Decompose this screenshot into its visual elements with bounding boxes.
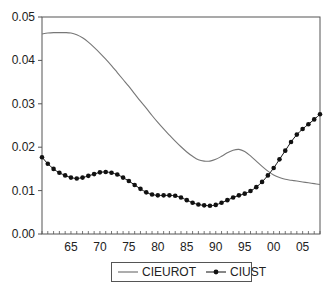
- line-dot-swatch-icon: [206, 267, 226, 277]
- data-point-marker: [277, 157, 282, 162]
- data-point-marker: [127, 179, 132, 184]
- data-point-marker: [295, 132, 300, 137]
- data-point-marker: [271, 166, 276, 171]
- data-point-marker: [103, 170, 108, 175]
- x-tick-label: 05: [296, 240, 310, 254]
- data-point-marker: [213, 203, 218, 208]
- legend-item-cieurot: CIEUROT: [118, 265, 196, 279]
- data-point-marker: [283, 148, 288, 153]
- data-point-marker: [167, 193, 172, 198]
- data-point-marker: [138, 187, 143, 192]
- line-swatch-icon: [118, 267, 138, 277]
- data-point-marker: [144, 190, 149, 195]
- line-chart: 0.000.010.020.030.040.05 657075808590950…: [0, 0, 332, 295]
- y-tick-label: 0.05: [12, 10, 36, 24]
- legend-label-cieurot: CIEUROT: [142, 265, 196, 279]
- data-point-marker: [132, 183, 137, 188]
- chart-legend: CIEUROT CIUST: [111, 262, 252, 282]
- data-point-marker: [156, 193, 161, 198]
- series-layer: [40, 33, 323, 208]
- data-point-marker: [51, 167, 56, 172]
- data-point-marker: [115, 172, 120, 177]
- data-point-marker: [173, 194, 178, 199]
- data-point-marker: [242, 191, 247, 196]
- x-tick-label: 85: [180, 240, 194, 254]
- data-point-marker: [208, 203, 213, 208]
- data-point-marker: [80, 175, 85, 180]
- data-point-marker: [254, 185, 259, 190]
- y-tick-label: 0.03: [12, 97, 36, 111]
- legend-label-ciust: CIUST: [230, 265, 266, 279]
- data-point-marker: [86, 174, 91, 179]
- data-point-marker: [57, 171, 62, 176]
- data-point-marker: [121, 175, 126, 180]
- data-point-marker: [74, 176, 79, 181]
- data-point-marker: [150, 192, 155, 197]
- data-point-marker: [300, 127, 305, 132]
- data-point-marker: [266, 173, 271, 178]
- y-tick-label: 0.01: [12, 184, 36, 198]
- data-point-marker: [179, 195, 184, 200]
- data-point-marker: [318, 112, 323, 117]
- data-point-marker: [184, 198, 189, 203]
- data-point-marker: [237, 193, 242, 198]
- y-tick-label: 0.04: [12, 53, 36, 67]
- data-point-marker: [196, 202, 201, 207]
- x-tick-label: 70: [93, 240, 107, 254]
- data-point-marker: [69, 175, 74, 180]
- data-point-marker: [92, 172, 97, 177]
- x-tick-label: 65: [64, 240, 78, 254]
- x-tick-label: 00: [267, 240, 281, 254]
- x-tick-label: 75: [122, 240, 136, 254]
- x-tick-label: 80: [151, 240, 165, 254]
- data-point-marker: [248, 189, 253, 194]
- x-tick-label: 90: [209, 240, 223, 254]
- legend-item-ciust: CIUST: [206, 265, 266, 279]
- data-point-marker: [289, 140, 294, 145]
- y-axis: 0.000.010.020.030.040.05: [12, 10, 42, 241]
- data-point-marker: [306, 122, 311, 127]
- x-tick-label: 95: [238, 240, 252, 254]
- y-tick-label: 0.00: [12, 227, 36, 241]
- y-tick-label: 0.02: [12, 140, 36, 154]
- data-point-marker: [161, 193, 166, 198]
- data-point-marker: [312, 117, 317, 122]
- data-point-marker: [98, 170, 103, 175]
- data-point-marker: [63, 173, 68, 178]
- data-point-marker: [225, 198, 230, 203]
- plot-frame: [42, 17, 320, 234]
- data-point-marker: [109, 171, 114, 176]
- data-point-marker: [260, 180, 265, 185]
- data-point-marker: [231, 195, 236, 200]
- data-point-marker: [202, 203, 207, 208]
- data-point-marker: [219, 200, 224, 205]
- data-point-marker: [40, 155, 45, 160]
- data-point-marker: [45, 161, 50, 166]
- data-point-marker: [190, 200, 195, 205]
